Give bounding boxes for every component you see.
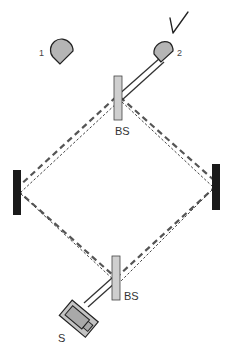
output-beam [117, 58, 164, 100]
mirror-right [212, 164, 220, 210]
beam-splitter-bottom [112, 256, 120, 300]
checkmark-icon [170, 12, 188, 33]
beam-splitter-bottom-label: BS [124, 290, 139, 302]
interferometer-diagram: 1 2 BS BS S [0, 0, 229, 353]
detector-2-label: 2 [177, 48, 182, 58]
source-label: S [58, 332, 65, 344]
detector-2 [154, 42, 173, 62]
beam-splitter-top [114, 76, 122, 120]
detector-1 [50, 39, 73, 64]
input-beam [84, 278, 116, 307]
detector-1-label: 1 [39, 48, 44, 58]
beam-splitter-top-label: BS [115, 125, 130, 137]
mirror-left [13, 170, 21, 215]
